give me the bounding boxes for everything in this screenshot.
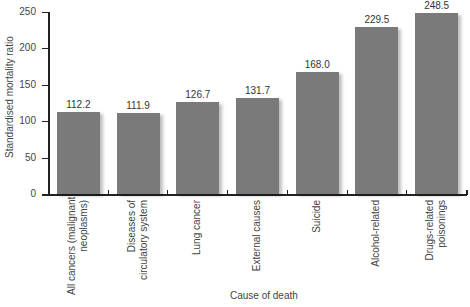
y-tick xyxy=(42,48,48,49)
x-tick xyxy=(108,190,109,194)
x-tick xyxy=(287,190,288,194)
value-label: 111.9 xyxy=(108,100,168,111)
bar xyxy=(355,27,398,194)
category-label: Suicide xyxy=(311,200,323,295)
y-tick xyxy=(42,121,48,122)
y-tick-label: 0 xyxy=(6,188,36,199)
y-tick-label: 200 xyxy=(6,42,36,53)
y-tick-label: 50 xyxy=(6,152,36,163)
bar xyxy=(176,102,219,194)
value-label: 126.7 xyxy=(168,89,228,100)
value-label: 248.5 xyxy=(407,0,467,11)
bar-chart: Standardised mortality ratio Cause of de… xyxy=(0,0,470,307)
x-tick xyxy=(347,190,348,194)
x-axis-end-tick xyxy=(466,190,468,195)
bar xyxy=(236,98,279,194)
bar xyxy=(415,13,458,194)
x-tick xyxy=(167,190,168,194)
value-label: 229.5 xyxy=(347,14,407,25)
y-tick xyxy=(42,85,48,86)
category-label: Drugs-related poisonings xyxy=(424,200,448,295)
y-tick-label: 150 xyxy=(6,79,36,90)
x-tick xyxy=(406,190,407,194)
bar xyxy=(57,112,100,194)
y-axis-label: Standardised mortality ratio xyxy=(4,36,15,158)
category-label: Lung cancer xyxy=(191,200,203,295)
y-tick xyxy=(42,194,48,195)
bar xyxy=(117,113,160,194)
y-tick xyxy=(42,158,48,159)
x-axis-line xyxy=(42,194,467,196)
x-axis-label: Cause of death xyxy=(230,290,298,301)
category-label: Diseases of circulatory system xyxy=(126,200,150,295)
y-tick xyxy=(42,12,48,13)
value-label: 168.0 xyxy=(287,59,347,70)
x-tick xyxy=(227,190,228,194)
y-tick-label: 250 xyxy=(6,6,36,17)
category-label: All cancers (malignant neoplasms) xyxy=(66,200,90,295)
category-label: External causes xyxy=(251,200,263,295)
y-tick-label: 100 xyxy=(6,115,36,126)
value-label: 112.2 xyxy=(48,99,108,110)
bar xyxy=(296,72,339,194)
value-label: 131.7 xyxy=(228,85,288,96)
category-label: Alcohol-related xyxy=(370,200,382,295)
